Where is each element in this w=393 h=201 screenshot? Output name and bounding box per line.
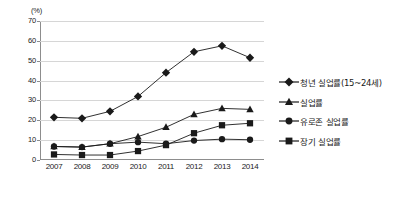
legend-item-label: 유로존 실업률	[300, 115, 349, 127]
data-point-marker	[51, 151, 57, 157]
data-point-marker	[162, 123, 169, 130]
y-axis-tick-label: 70	[28, 17, 36, 25]
data-point-marker	[79, 144, 85, 150]
data-point-marker	[191, 130, 197, 136]
y-axis-tick-labels: 010203040506070	[16, 21, 36, 160]
data-point-marker	[218, 104, 225, 111]
x-axis-tick-label: 2012	[186, 163, 203, 171]
diamond-marker-icon	[278, 75, 300, 89]
data-point-marker	[190, 48, 198, 56]
data-point-marker	[218, 42, 226, 50]
data-point-marker	[51, 143, 57, 149]
circle-marker-icon	[278, 114, 300, 128]
y-axis-tick-label: 20	[28, 117, 36, 125]
x-axis-tick-label: 2007	[46, 163, 63, 171]
data-point-marker	[247, 137, 253, 143]
chart-legend: 청년 실업률(15~24세)실업률유로존 실업률장기 실업률	[278, 74, 390, 152]
legend-item-label: 장기 실업률	[300, 135, 341, 147]
y-axis-tick-label: 60	[28, 37, 36, 45]
data-point-marker	[78, 114, 86, 122]
legend-item[interactable]: 청년 실업률(15~24세)	[278, 74, 390, 90]
y-axis-tick-label: 30	[28, 97, 36, 105]
data-point-marker	[107, 152, 113, 158]
data-point-marker	[135, 139, 141, 145]
data-point-marker	[191, 137, 197, 143]
data-point-marker	[247, 120, 253, 126]
data-series-layer	[40, 21, 264, 160]
data-point-marker	[219, 122, 225, 128]
data-point-marker	[106, 107, 114, 115]
data-point-marker	[163, 142, 169, 148]
data-point-marker	[107, 141, 113, 147]
y-axis-tick-label: 40	[28, 77, 36, 85]
triangle-marker-icon	[278, 95, 300, 109]
chart-figure: (%) 010203040506070 20072008200920102011…	[0, 0, 393, 201]
data-point-marker	[79, 152, 85, 158]
y-axis-unit-label: (%)	[31, 6, 42, 15]
x-axis-tick-label: 2011	[158, 163, 174, 171]
x-axis-tick-label: 2014	[242, 163, 259, 171]
y-axis-tick-label: 0	[32, 156, 36, 164]
x-axis-tick-labels: 20072008200920102011201220132014	[40, 163, 264, 177]
x-axis-tick-label: 2013	[214, 163, 231, 171]
x-axis-tick-label: 2010	[130, 163, 147, 171]
square-marker-icon	[278, 134, 300, 148]
legend-item[interactable]: 장기 실업률	[278, 133, 390, 149]
legend-item[interactable]: 유로존 실업률	[278, 113, 390, 129]
data-point-marker	[135, 148, 141, 154]
y-axis-tick-label: 50	[28, 57, 36, 65]
x-axis-tick-label: 2008	[74, 163, 91, 171]
legend-item[interactable]: 실업률	[278, 94, 390, 110]
legend-item-label: 실업률	[300, 96, 323, 108]
data-point-marker	[246, 105, 253, 112]
x-axis-tick-label: 2009	[102, 163, 119, 171]
data-point-marker	[50, 113, 58, 121]
legend-item-label: 청년 실업률(15~24세)	[300, 76, 382, 88]
data-point-marker	[246, 54, 254, 62]
y-axis-tick-label: 10	[28, 136, 36, 144]
y-axis-tick	[37, 160, 40, 161]
data-point-marker	[219, 136, 225, 142]
